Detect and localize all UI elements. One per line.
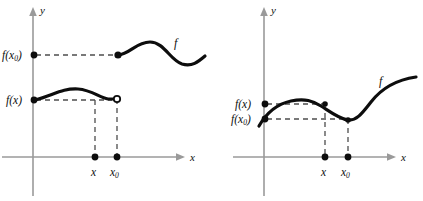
left-x-axis-label: x (189, 151, 195, 163)
right-y-axis-label: y (270, 4, 276, 16)
right-x-tick-label-x: x (320, 166, 327, 178)
right-y-dot-fx0 (262, 116, 269, 123)
right-x-axis-label: x (400, 151, 406, 163)
left-lower-branch-open-dot (114, 96, 120, 102)
right-x-axis-dot-x0 (345, 154, 352, 161)
left-x-tick-label-x0: x0 (109, 166, 119, 180)
right-panel-svg: y x f f(x) f(x0) x (211, 0, 423, 201)
left-y-axis-label: y (39, 4, 45, 16)
right-continuous-curve (259, 77, 416, 126)
left-upper-branch-filled-dot (114, 51, 121, 58)
left-lower-branch-curve (35, 89, 114, 100)
right-x-tick-label-x0: x0 (340, 166, 350, 180)
left-x-axis-dot-x0 (114, 154, 121, 161)
right-x-axis (233, 153, 396, 161)
discontinuous-function-panel: y x f f(x0) f(x) (0, 0, 211, 201)
right-x-axis-dot-x (322, 154, 329, 161)
right-curve-label-f: f (379, 74, 384, 88)
right-y-tick-label-fx0: f(x0) (231, 113, 251, 127)
left-y-tick-label-fx: f(x) (6, 94, 22, 107)
left-curve-label-f: f (174, 36, 179, 50)
right-curve-dot-x (322, 101, 328, 107)
left-x-axis-dot-x (92, 154, 99, 161)
left-panel-svg: y x f f(x0) f(x) (0, 0, 211, 201)
right-curve-dot-x0 (345, 117, 351, 123)
left-y-tick-label-fx0: f(x0) (2, 49, 22, 63)
right-y-dot-fx (262, 101, 269, 108)
left-y-dot-fx0 (31, 52, 38, 59)
right-y-tick-label-fx: f(x) (235, 98, 251, 111)
figure-container: y x f f(x0) f(x) (0, 0, 423, 201)
left-x-tick-label-x: x (90, 166, 97, 178)
continuous-function-panel: y x f f(x) f(x0) x (211, 0, 423, 201)
left-y-dot-fx (31, 97, 38, 104)
left-upper-branch-curve (118, 42, 205, 65)
